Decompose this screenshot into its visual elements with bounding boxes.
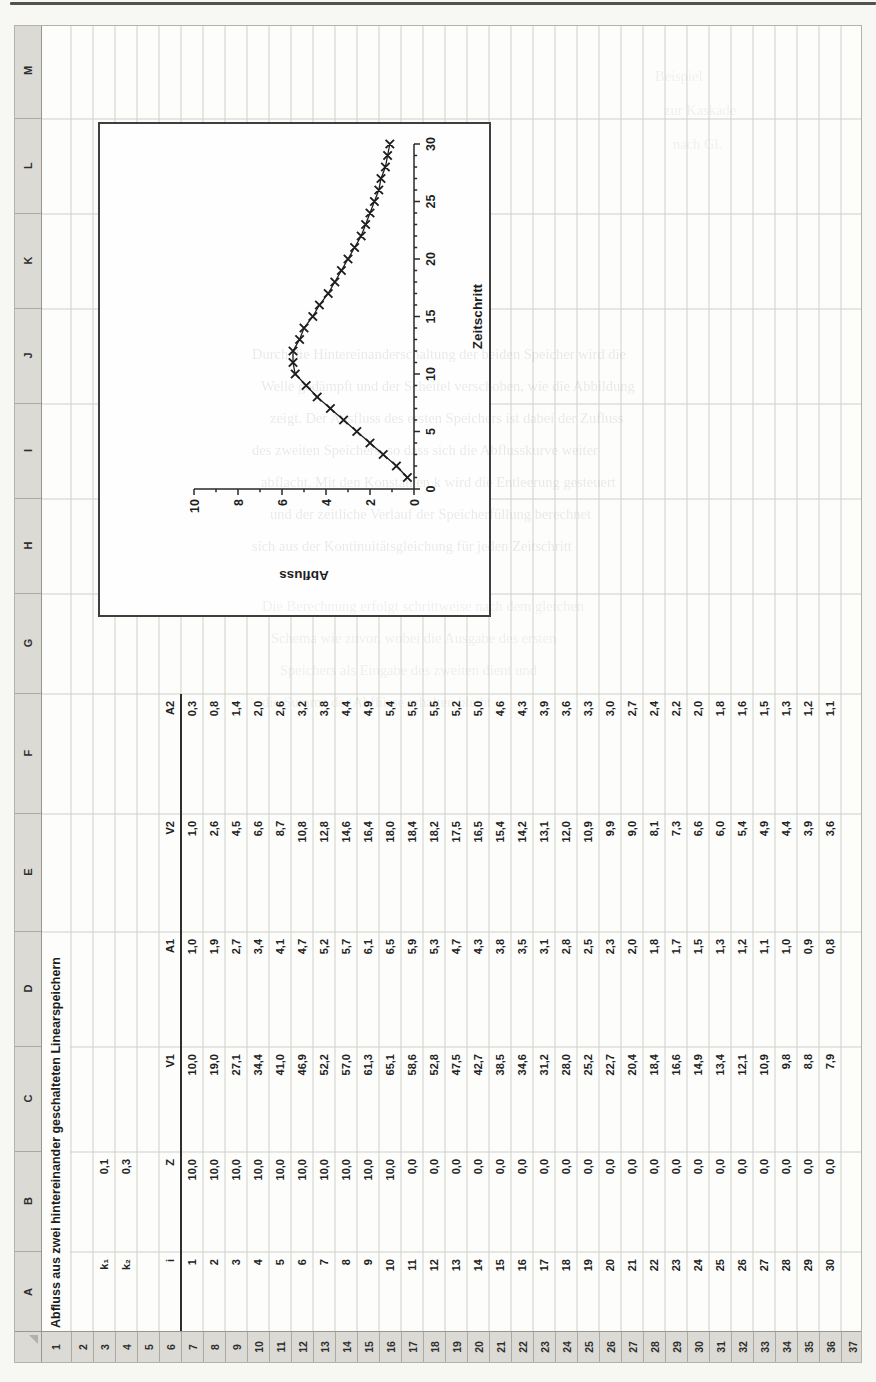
cell-E18: 18,2	[423, 814, 445, 932]
cell-F31: 1,8	[709, 694, 731, 814]
cell-B13: 10,0	[313, 1152, 335, 1252]
cell-B36: 0,0	[819, 1152, 841, 1252]
cell-D36: 0,8	[819, 932, 841, 1047]
row-header-19: 19	[445, 1332, 468, 1362]
cell-F32: 1,6	[731, 694, 753, 814]
cell-B23: 0,0	[533, 1152, 555, 1252]
cell-D29: 1,7	[665, 932, 687, 1047]
cell-B25: 0,0	[577, 1152, 599, 1252]
cell-B11: 10,0	[269, 1152, 291, 1252]
cell-A11: 5	[269, 1252, 291, 1332]
cell-A25: 19	[577, 1252, 599, 1332]
cell-E29: 7,3	[665, 814, 687, 932]
cell-F26: 3,0	[599, 694, 621, 814]
row-header-8: 8	[203, 1332, 226, 1362]
y-tick-label: 4	[320, 499, 334, 506]
x-tick-label: 15	[424, 310, 438, 324]
cell-E28: 8,1	[643, 814, 665, 932]
cell-B30: 0,0	[687, 1152, 709, 1252]
cell-B31: 0,0	[709, 1152, 731, 1252]
cell-F19: 5,2	[445, 694, 467, 814]
cell-C13: 52,2	[313, 1047, 335, 1152]
table-header-a2: A2	[159, 694, 181, 814]
row-header-29: 29	[665, 1332, 688, 1362]
y-tick-label: 6	[276, 499, 290, 506]
book-page: Abfluss aus zwei hintereinander geschalt…	[0, 0, 876, 1382]
cell-C30: 14,9	[687, 1047, 709, 1152]
chart-x-axis-title: Zeitschritt	[470, 144, 485, 489]
header-strip-border	[41, 25, 42, 1362]
row-header-36: 36	[819, 1332, 842, 1362]
cell-C33: 10,9	[753, 1047, 775, 1152]
row-header-2: 2	[71, 1332, 94, 1362]
cell-B26: 0,0	[599, 1152, 621, 1252]
cell-A14: 8	[335, 1252, 357, 1332]
row-header-16: 16	[379, 1332, 402, 1362]
cell-A24: 18	[555, 1252, 577, 1332]
cell-D12: 4,7	[291, 932, 313, 1047]
cell-D26: 2,3	[599, 932, 621, 1047]
cell-F18: 5,5	[423, 694, 445, 814]
cell-A32: 26	[731, 1252, 753, 1332]
cell-C17: 58,6	[401, 1047, 423, 1152]
cell-B10: 10,0	[247, 1152, 269, 1252]
column-header-L: L	[15, 118, 41, 214]
row-header-10: 10	[247, 1332, 270, 1362]
cell-A21: 15	[489, 1252, 511, 1332]
row-header-31: 31	[709, 1332, 732, 1362]
column-header-J: J	[15, 308, 41, 404]
cell-C12: 46,9	[291, 1047, 313, 1152]
cell-B24: 0,0	[555, 1152, 577, 1252]
cell-F34: 1,3	[775, 694, 797, 814]
row-header-4: 4	[115, 1332, 138, 1362]
cell-B32: 0,0	[731, 1152, 753, 1252]
row-header-37: 37	[841, 1332, 862, 1362]
cell-A34: 28	[775, 1252, 797, 1332]
cell-A15: 9	[357, 1252, 379, 1332]
table-header-z: Z	[159, 1152, 181, 1252]
cell-D13: 5,2	[313, 932, 335, 1047]
row-header-9: 9	[225, 1332, 248, 1362]
cell-F30: 2,0	[687, 694, 709, 814]
row-header-3: 3	[93, 1332, 116, 1362]
cell-C21: 38,5	[489, 1047, 511, 1152]
cell-F23: 3,9	[533, 694, 555, 814]
cell-E30: 6,6	[687, 814, 709, 932]
table-header-a1: A1	[159, 932, 181, 1047]
cell-F7: 0,3	[181, 694, 203, 814]
page-header-rule	[10, 2, 876, 5]
select-all-triangle-icon	[29, 1335, 38, 1344]
cell-A22: 16	[511, 1252, 533, 1332]
cell-C34: 9,8	[775, 1047, 797, 1152]
cell-C20: 42,7	[467, 1047, 489, 1152]
table-header-v1: V1	[159, 1047, 181, 1152]
x-tick-label: 0	[424, 485, 438, 492]
cell-F21: 4,6	[489, 694, 511, 814]
cell-C25: 25,2	[577, 1047, 599, 1152]
cell-E34: 4,4	[775, 814, 797, 932]
cell-A20: 14	[467, 1252, 489, 1332]
cell-F14: 4,4	[335, 694, 357, 814]
cell-E11: 8,7	[269, 814, 291, 932]
cell-E23: 13,1	[533, 814, 555, 932]
row-header-21: 21	[489, 1332, 512, 1362]
cell-C9: 27,1	[225, 1047, 247, 1152]
cell-F22: 4,3	[511, 694, 533, 814]
cell-C35: 8,8	[797, 1047, 819, 1152]
cell-C22: 34,6	[511, 1047, 533, 1152]
cell-D33: 1,1	[753, 932, 775, 1047]
column-header-B: B	[15, 1151, 41, 1252]
cell-A18: 12	[423, 1252, 445, 1332]
cell-E7: 1,0	[181, 814, 203, 932]
cell-D28: 1,8	[643, 932, 665, 1047]
cell-E36: 3,6	[819, 814, 841, 932]
cell-D32: 1,2	[731, 932, 753, 1047]
param-k1-value: 0,1	[93, 1152, 115, 1252]
cell-E33: 4,9	[753, 814, 775, 932]
cell-E14: 14,6	[335, 814, 357, 932]
cell-B19: 0,0	[445, 1152, 467, 1252]
cell-C11: 41,0	[269, 1047, 291, 1152]
spreadsheet: Abfluss aus zwei hintereinander geschalt…	[14, 25, 862, 1363]
cell-B21: 0,0	[489, 1152, 511, 1252]
cell-D27: 2,0	[621, 932, 643, 1047]
